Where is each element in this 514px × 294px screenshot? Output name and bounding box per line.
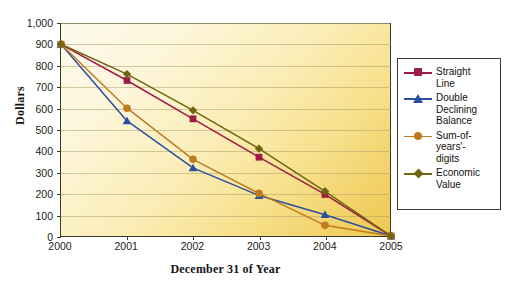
y-tick-label: 400 (35, 146, 53, 157)
legend-key-icon (403, 167, 433, 180)
legend-key-icon (403, 130, 433, 143)
x-tick-label: 2004 (313, 241, 336, 252)
legend-marker-square-icon (414, 68, 422, 76)
y-tick-label: 700 (35, 82, 53, 93)
y-tick-label: 100 (35, 210, 53, 221)
y-tick-label: 600 (35, 103, 53, 114)
series-layer (61, 23, 391, 236)
legend-label: Sum-of- years'- digits (436, 130, 472, 165)
data-point-marker (189, 106, 197, 114)
data-point-marker (321, 222, 329, 230)
legend-label: Double Declining Balance (436, 92, 477, 127)
legend-key-icon (403, 66, 433, 79)
series-line (61, 44, 391, 236)
legend-label: Economic Value (436, 167, 480, 190)
legend-item-straight-line[interactable]: Straight Line (403, 66, 495, 89)
legend-marker-diamond-icon (414, 169, 424, 179)
legend-item-double-declining-balance[interactable]: Double Declining Balance (403, 92, 495, 127)
legend-label: Straight Line (436, 66, 470, 89)
series-line (61, 44, 391, 236)
legend-marker-triangle-icon (413, 94, 423, 103)
x-axis-title: December 31 of Year (60, 262, 391, 277)
legend-item-economic-value[interactable]: Economic Value (403, 167, 495, 190)
y-tick-label: 800 (35, 61, 53, 72)
y-tick-label: 200 (35, 189, 53, 200)
series-line (61, 44, 391, 236)
data-point-marker (123, 70, 131, 78)
x-tick-label: 2002 (181, 241, 204, 252)
data-point-marker (255, 144, 263, 152)
x-tick-label: 2000 (48, 241, 71, 252)
y-tickmark (57, 237, 61, 238)
legend-item-sum-of-years-digits[interactable]: Sum-of- years'- digits (403, 130, 495, 165)
y-tick-label: 500 (35, 125, 53, 136)
y-tick-label: 900 (35, 39, 53, 50)
y-tick-label: 300 (35, 168, 53, 179)
legend-marker-circle-icon (414, 132, 422, 140)
x-tick-label: 2005 (379, 241, 402, 252)
data-point-marker (255, 190, 263, 198)
chart-legend: Straight LineDouble Declining BalanceSum… (397, 58, 501, 210)
data-point-marker (189, 156, 197, 164)
chart-figure: Dollars 1,000900800700600500400300200100… (0, 0, 514, 294)
data-point-marker (123, 104, 131, 112)
x-tick-label: 2003 (247, 241, 270, 252)
data-point-marker (256, 154, 263, 161)
x-tick-label: 2001 (115, 241, 138, 252)
series-straight-line (58, 41, 395, 239)
legend-key-icon (403, 92, 433, 105)
series-line (61, 44, 391, 236)
data-point-marker (190, 115, 197, 122)
y-tick-label: 1,000 (27, 18, 53, 29)
x-axis-tick-labels: 200020012002200320042005 (60, 241, 391, 257)
plot-area (60, 23, 391, 237)
